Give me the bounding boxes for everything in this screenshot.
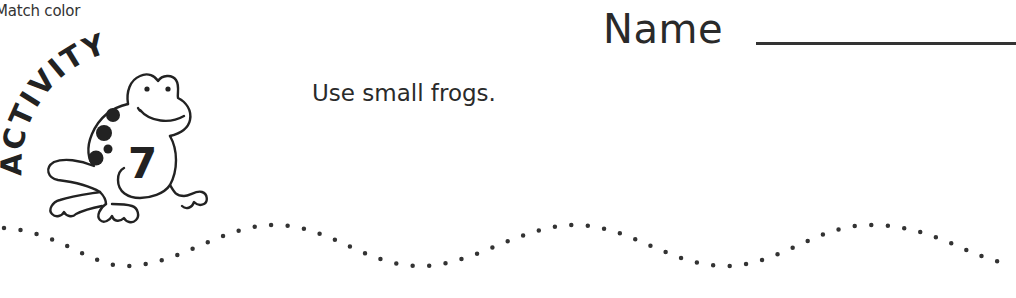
activity-topic-label: Match color [0,2,80,20]
frog-eye-left [144,86,149,91]
name-write-line[interactable] [756,42,1016,45]
frog-spot [106,108,120,122]
frog-spot [89,151,104,166]
instruction-text: Use small frogs. [312,80,496,106]
frog-eye-right [165,86,170,91]
frog-spot [104,145,113,154]
dotted-tracing-line [0,200,1005,298]
frog-spot [96,125,112,141]
name-label: Name [603,6,723,52]
activity-number: 7 [128,139,157,188]
name-field[interactable]: Name [603,6,723,52]
